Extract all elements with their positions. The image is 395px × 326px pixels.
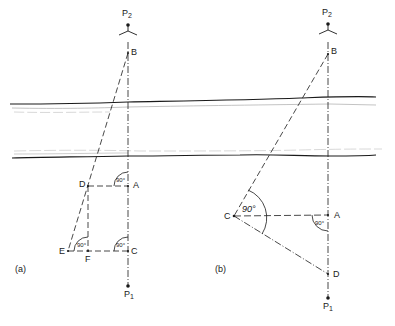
label-e-a: E: [59, 247, 65, 256]
label-d-a: D: [79, 180, 86, 189]
label-a-b: A: [334, 211, 340, 220]
label-c-a: C: [131, 247, 138, 256]
angle-label-f: 90°: [77, 242, 86, 248]
line-c-d: [234, 216, 328, 274]
caption-b: (b): [215, 264, 226, 274]
angle-label-a: 90°: [116, 177, 125, 183]
line-b-e: [68, 53, 128, 251]
point-e-dot: [67, 250, 69, 252]
angle-label-c: 90°: [116, 242, 125, 248]
line-c-a: [234, 215, 328, 216]
river-bottom-bank: [12, 155, 376, 158]
label-a-a: A: [133, 181, 139, 190]
river: [10, 97, 382, 158]
label-c-b: C: [224, 212, 231, 221]
observer-tripod-icon: [119, 26, 137, 35]
label-p1-b: P1: [323, 302, 333, 312]
river-top-bank-shade: [12, 104, 376, 108]
point-f-dot: [87, 250, 89, 252]
label-p1-a: P1: [124, 290, 134, 300]
station-p1-dot: [326, 296, 330, 300]
label-b-b: B: [331, 47, 337, 56]
river-top-bank: [10, 97, 376, 104]
point-d-dot: [87, 185, 89, 187]
river-bottom-bank-shade: [14, 149, 382, 151]
caption-a: (a): [15, 264, 26, 274]
river-bottom-bank-shade-2: [14, 153, 128, 154]
point-c-dot: [233, 215, 236, 218]
angle-label-c-b: 90°: [242, 205, 256, 214]
observer-tripod-icon: [319, 25, 337, 34]
angle-label-a-b: 90°: [315, 220, 324, 226]
label-p2-b: P2: [322, 8, 332, 18]
label-p2-a: P2: [122, 9, 132, 19]
panel-b: [233, 22, 337, 300]
label-d-b: D: [333, 270, 340, 279]
line-b-c: [234, 54, 328, 216]
label-f-a: F: [85, 255, 91, 264]
label-b-a: B: [131, 48, 137, 57]
station-p1-dot: [126, 284, 130, 288]
